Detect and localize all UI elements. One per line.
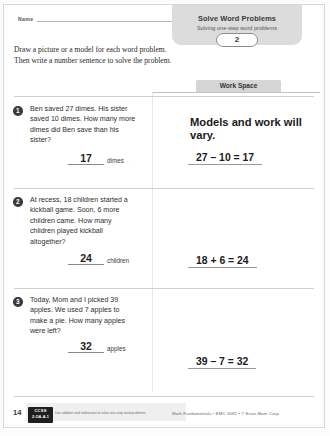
work-space-note: Models and work will vary. <box>190 116 310 142</box>
problem-number-1: 1 <box>13 106 23 116</box>
ccss-description: Use addition and subtraction to solve on… <box>55 411 155 415</box>
answer-unit-3: apples <box>107 345 126 353</box>
work-equation-3: 39 – 7 = 32 <box>188 356 256 369</box>
lesson-badge: Solve Word Problems Solving one-step wor… <box>172 5 302 45</box>
problem-text-2: At recess, 18 children started a kickbal… <box>30 195 138 247</box>
problem-divider-3 <box>14 288 314 289</box>
problem-text-3: Today, Mom and I picked 39 apples. We us… <box>30 295 138 337</box>
problem-divider-2 <box>14 188 314 189</box>
work-equation-1: 27 – 10 = 17 <box>188 152 262 165</box>
answer-row-1[interactable]: 17 dimes · <box>68 152 129 165</box>
answer-blank-3[interactable]: 32 <box>68 340 104 353</box>
answer-unit-1: dimes <box>107 157 124 165</box>
work-space-rule <box>152 92 320 93</box>
instructions: Draw a picture or a model for each word … <box>14 45 264 66</box>
answer-unit-2: children <box>107 257 129 265</box>
page-number: 14 <box>13 408 21 417</box>
problem-divider-1 <box>14 96 314 97</box>
worksheet-page: Name Solve Word Problems Solving one-ste… <box>0 0 330 436</box>
problem-number-2: 2 <box>13 197 23 207</box>
ccss-label: CCSS <box>28 407 53 414</box>
footer-credit: Math Fundamentals • EMC 3082 • © Evan-Mo… <box>172 411 280 416</box>
answer-blank-2[interactable]: 24 <box>68 252 104 265</box>
ccss-badge: CCSS 2.OA.A.1 <box>28 407 53 423</box>
name-label: Name <box>18 16 33 22</box>
work-equation-2: 18 + 6 = 24 <box>188 255 257 268</box>
answer-mark-1: · <box>127 158 129 165</box>
footer-divider <box>14 396 314 397</box>
ccss-code: 2.OA.A.1 <box>28 414 53 420</box>
answer-blank-1[interactable]: 17 <box>68 152 104 165</box>
problem-text-1: Ben saved 27 dimes. His sister saved 10 … <box>30 104 138 146</box>
answer-row-3[interactable]: 32 apples <box>68 340 126 353</box>
instruction-line-1: Draw a picture or a model for each word … <box>14 45 264 56</box>
instruction-line-2: Then write a number sentence to solve th… <box>14 56 264 67</box>
answer-row-2[interactable]: 24 children <box>68 252 129 265</box>
column-divider <box>152 92 153 392</box>
problem-number-3: 3 <box>13 297 23 307</box>
work-space-tab: Work Space <box>196 80 281 92</box>
lesson-title: Solve Word Problems <box>172 5 302 23</box>
lesson-subtitle: Solving one-step word problems <box>172 23 302 31</box>
